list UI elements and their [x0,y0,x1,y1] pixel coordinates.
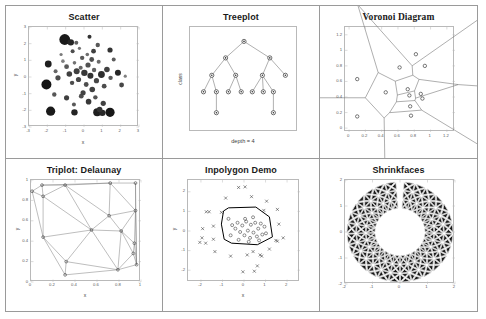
tick-label-y: -3 [12,124,26,129]
triplot-axes [30,179,140,281]
voronoi-plot-area [345,27,455,132]
figure-window: Scatter -3-2-10123-3-2-10123 x y Treeplo… [0,0,486,319]
inpolygon-title: Inpolygon Demo [163,165,319,175]
tick-label-y: 0 [328,228,342,233]
tick-label-y: 1 [328,202,342,207]
tick-label-x: 0 [242,282,244,287]
scatter-title: Scatter [6,12,162,22]
tick-label-y: 1.2 [328,31,342,36]
panel-scatter[interactable]: Scatter -3-2-10123-3-2-10123 x y [6,6,163,159]
treeplot-ylabel: class [177,54,183,104]
subplot-grid: Scatter -3-2-10123-3-2-10123 x y Treeplo… [6,6,477,311]
tick-label-x: 1.2 [443,133,449,138]
tick-label-x: -1 [370,284,374,289]
tick-label-y: 0.6 [328,78,342,83]
tick-label-y: 2 [12,40,26,45]
panel-treeplot[interactable]: Treeplot depth = 4 class [163,6,320,159]
tick-label-x: 0 [398,284,400,289]
tick-label-y: -2 [328,280,342,285]
tick-label-y: 0 [328,125,342,130]
tick-label-x: 0.8 [410,133,416,138]
treeplot-axes [189,26,297,131]
inpolygon-axes [187,179,299,281]
tick-label-x: -3 [26,128,30,133]
tick-label-x: 2 [453,284,455,289]
tick-label-y: 1 [328,47,342,52]
inpolygon-ylabel: y [171,204,177,254]
tick-label-x: 1 [425,284,427,289]
tick-label-x: 0.8 [115,282,121,287]
tick-label-x: 0 [82,128,84,133]
shrinkfaces-plot-area [345,180,455,284]
inpolygon-plot-area [188,180,300,282]
tick-label-y: 0.8 [328,62,342,67]
tick-label-x: 1 [139,282,141,287]
tick-label-x: 1 [100,128,102,133]
tick-label-x: 1 [428,133,430,138]
tick-label-x: 0.6 [93,282,99,287]
voronoi-axes [344,26,454,131]
shrinkfaces-title: Shrinkfaces [320,165,477,175]
tick-label-y: -2 [171,266,185,271]
tick-label-y: 0.2 [14,258,28,263]
panel-inpolygon[interactable]: Inpolygon Demo -2-1012-2-1012 x y [163,159,320,312]
tick-label-x: 0 [347,133,349,138]
treeplot-plot-area [190,27,298,132]
panel-shrinkfaces[interactable]: Shrinkfaces -2-1012-2-1012 [320,159,477,312]
panel-voronoi[interactable]: Voronoi Diagram 00.20.40.60.811.200.20.4… [320,6,477,159]
tick-label-x: 3 [137,128,139,133]
tick-label-y: 2 [171,188,185,193]
tick-label-x: 0 [29,282,31,287]
tick-label-y: 3 [12,24,26,29]
voronoi-title: Voronoi Diagram [320,12,477,22]
scatter-axes [28,26,138,126]
tick-label-x: -1 [63,128,67,133]
tick-label-y: -1 [328,254,342,259]
scatter-plot-area [29,27,139,127]
tick-label-x: -2 [342,284,346,289]
tick-label-x: -1 [220,282,224,287]
triplot-xlabel: x [30,292,140,298]
tick-label-x: 1 [263,282,265,287]
treeplot-xlabel: depth = 4 [189,138,297,144]
tick-label-y: 0.8 [14,196,28,201]
tick-label-y: 0.2 [328,109,342,114]
triplot-plot-area [31,180,141,282]
scatter-xlabel: x [28,139,138,145]
tick-label-x: -2 [198,282,202,287]
treeplot-title: Treeplot [163,12,319,22]
triplot-ylabel: y [14,204,20,254]
triplot-title: Triplot: Delaunay [6,165,162,175]
tick-label-x: 0.4 [71,282,77,287]
tick-label-x: -2 [44,128,48,133]
tick-label-y: 2 [328,176,342,181]
tick-label-x: 2 [285,282,287,287]
tick-label-y: 0.4 [328,94,342,99]
tick-label-x: 2 [118,128,120,133]
tick-label-y: -2 [12,107,26,112]
shrinkfaces-axes [344,179,454,283]
tick-label-x: 0.6 [394,133,400,138]
figure-frame: Scatter -3-2-10123-3-2-10123 x y Treeplo… [5,5,478,312]
scatter-ylabel: y [12,50,18,100]
tick-label-x: 0.2 [361,133,367,138]
inpolygon-xlabel: x [187,292,299,298]
panel-triplot[interactable]: Triplot: Delaunay 00.20.40.60.8100.20.40… [6,159,163,312]
tick-label-y: 0 [14,278,28,283]
tick-label-x: 0.4 [378,133,384,138]
tick-label-x: 0.2 [49,282,55,287]
tick-label-y: 1 [14,176,28,181]
